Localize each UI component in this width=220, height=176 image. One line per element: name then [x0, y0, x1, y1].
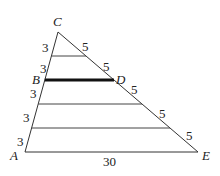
left-seg-2: 3 — [40, 61, 47, 76]
side-ce — [58, 32, 198, 152]
triangle-diagram: C B D A E 3 3 3 3 3 5 5 5 5 5 30 — [0, 0, 220, 176]
right-seg-3: 5 — [131, 82, 138, 97]
right-seg-2: 5 — [103, 59, 110, 74]
left-seg-3: 3 — [30, 86, 37, 101]
label-b: B — [32, 72, 40, 87]
left-seg-5: 3 — [17, 134, 24, 149]
right-seg-5: 5 — [186, 128, 193, 143]
label-e: E — [201, 148, 210, 163]
left-seg-4: 3 — [23, 110, 30, 125]
base-label: 30 — [103, 154, 116, 169]
label-a: A — [9, 148, 18, 163]
right-seg-4: 5 — [159, 106, 166, 121]
label-d: D — [115, 72, 126, 87]
left-seg-1: 3 — [42, 40, 49, 55]
right-seg-1: 5 — [82, 39, 89, 54]
label-c: C — [53, 14, 62, 29]
